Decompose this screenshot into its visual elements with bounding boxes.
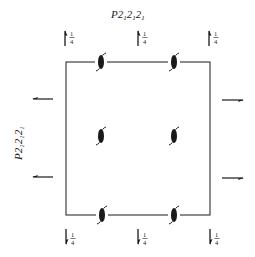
top-arrow-1 [65,30,68,46]
fraction-label: 1 4 [215,231,220,246]
top-arrow-3 [209,30,212,46]
fraction-label: 1 4 [214,30,219,45]
svg-text:1: 1 [214,30,217,37]
screw-axis-icon [168,53,180,71]
top-arrow-2 [138,30,141,46]
svg-text:1: 1 [143,231,146,238]
screw-axis-icon [96,127,106,145]
fraction-label: 1 4 [143,30,148,45]
side-label: P212121 [12,126,26,161]
fraction-label: 1 4 [143,231,148,246]
screw-axis-icon [168,206,180,224]
left-arrow-1 [32,97,53,99]
left-arrow-2 [32,175,53,177]
svg-text:1: 1 [70,30,73,37]
svg-text:4: 4 [70,38,74,45]
svg-text:4: 4 [71,239,75,246]
svg-text:1: 1 [71,231,74,238]
fraction-label: 1 4 [71,231,76,246]
screw-axis-icon [169,127,179,145]
unit-cell-outline [66,62,210,215]
bottom-arrow-1 [66,229,69,245]
svg-text:1: 1 [215,231,218,238]
right-arrow-1 [222,100,244,102]
screw-axis-icon [95,53,107,71]
right-arrow-2 [222,178,244,180]
svg-text:4: 4 [143,239,147,246]
fraction-label: 1 4 [70,30,75,45]
space-group-diagram: P212121 P212121 1 4 1 4 1 4 1 [0,0,255,257]
diagram-title: P212121 [110,8,145,22]
bottom-arrow-2 [138,229,141,245]
svg-text:1: 1 [143,30,146,37]
bottom-arrow-3 [210,229,213,245]
svg-text:4: 4 [143,38,147,45]
svg-text:4: 4 [215,239,219,246]
screw-axis-icon [96,206,108,224]
svg-text:4: 4 [214,38,218,45]
